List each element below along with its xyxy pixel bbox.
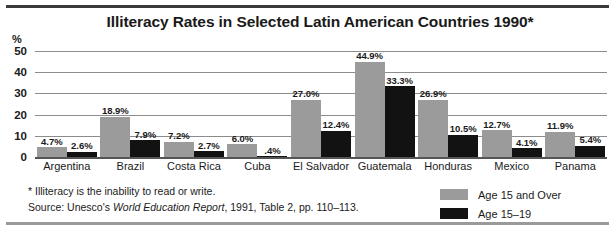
legend-label: Age 15–19 <box>478 208 531 220</box>
bar: 11.9% <box>545 132 575 157</box>
y-axis-tick-label: 40 <box>0 66 27 78</box>
x-axis-label: El Salvador <box>289 160 353 174</box>
bar-value-label: 5.4% <box>579 135 601 145</box>
axis-baseline <box>35 157 607 159</box>
plot-area: 50403020100 4.7%2.6%18.9%7.9%7.2%2.7%6.0… <box>35 51 607 157</box>
bar: 18.9% <box>100 117 130 157</box>
x-axis-labels: ArgentinaBrazilCosta RicaCubaEl Salvador… <box>35 160 607 174</box>
bar-group: 12.7%4.1% <box>480 51 544 157</box>
y-axis-tick-label: 50 <box>0 45 27 57</box>
bar-group: 44.9%33.3% <box>353 51 417 157</box>
bar-value-label: 4.1% <box>516 138 538 148</box>
bar: 2.7% <box>194 151 224 157</box>
bar-pair: 44.9%33.3% <box>353 51 417 157</box>
black-swatch <box>440 208 468 219</box>
x-axis-label: Guatemala <box>353 160 417 174</box>
x-axis-label: Cuba <box>226 160 290 174</box>
top-rule <box>6 5 609 8</box>
bottom-rule <box>6 222 609 225</box>
bar-pair: 11.9%5.4% <box>544 51 608 157</box>
bar-group: 7.2%2.7% <box>162 51 226 157</box>
x-axis-label: Panama <box>544 160 608 174</box>
bar-group: 18.9%7.9% <box>99 51 163 157</box>
bar-value-label: 10.5% <box>450 124 477 134</box>
bar-value-label: 2.6% <box>71 141 93 151</box>
bar: 4.1% <box>512 148 542 157</box>
bar-group: 26.9%10.5% <box>416 51 480 157</box>
bar-value-label: 2.7% <box>198 141 220 151</box>
bar-group: 6.0%.4% <box>226 51 290 157</box>
source-prefix: Source: Unesco's <box>28 201 113 213</box>
y-axis-tick-label: 10 <box>0 130 27 142</box>
bar-value-label: 33.3% <box>386 76 413 86</box>
chart-title: Illiteracy Rates in Selected Latin Ameri… <box>40 13 600 31</box>
bar-value-label: 4.7% <box>41 137 63 147</box>
bar-pair: 18.9%7.9% <box>99 51 163 157</box>
chart-figure: % Illiteracy Rates in Selected Latin Ame… <box>0 0 615 229</box>
bar-value-label: 44.9% <box>356 51 383 61</box>
bar-value-label: 11.9% <box>547 121 573 131</box>
bar-pair: 6.0%.4% <box>226 51 290 157</box>
bar: 6.0% <box>227 144 257 157</box>
gray-swatch <box>440 189 468 200</box>
x-axis-label: Costa Rica <box>162 160 226 174</box>
bar: 5.4% <box>575 146 605 157</box>
bar-group: 4.7%2.6% <box>35 51 99 157</box>
bar-value-label: 12.4% <box>323 120 350 130</box>
bar: 10.5% <box>448 135 478 157</box>
chart-legend: Age 15 and OverAge 15–19 <box>440 186 561 224</box>
footnote-asterisk: * Illiteracy is the inability to read or… <box>28 185 215 197</box>
bar-pair: 12.7%4.1% <box>480 51 544 157</box>
bar: 12.7% <box>482 130 512 157</box>
y-axis-tick-label: 0 <box>0 151 27 163</box>
source-note: Source: Unesco's World Education Report,… <box>28 201 359 213</box>
bar-value-label: 18.9% <box>102 106 129 116</box>
source-publication-title: World Education Report <box>113 201 224 213</box>
x-axis-label: Mexico <box>480 160 544 174</box>
bar-group: 11.9%5.4% <box>544 51 608 157</box>
bar-pair: 27.0%12.4% <box>289 51 353 157</box>
source-suffix: , 1991, Table 2, pp. 110–113. <box>224 201 358 213</box>
bar-pair: 7.2%2.7% <box>162 51 226 157</box>
bar-group: 27.0%12.4% <box>289 51 353 157</box>
bar-value-label: 7.9% <box>135 130 157 140</box>
bar-groups: 4.7%2.6%18.9%7.9%7.2%2.7%6.0%.4%27.0%12.… <box>35 51 607 157</box>
bar-pair: 26.9%10.5% <box>416 51 480 157</box>
bar-value-label: 26.9% <box>420 89 447 99</box>
x-axis-label: Honduras <box>416 160 480 174</box>
bar: 44.9% <box>355 62 385 157</box>
bar-value-label: 6.0% <box>232 134 254 144</box>
bar-value-label: 12.7% <box>483 120 510 130</box>
y-axis-tick-label: 20 <box>0 109 27 121</box>
bar: 7.2% <box>164 142 194 157</box>
bar: 27.0% <box>291 100 321 157</box>
bar: 4.7% <box>37 147 67 157</box>
y-axis-unit-label: % <box>12 33 22 45</box>
legend-item: Age 15–19 <box>440 205 561 222</box>
x-axis-label: Argentina <box>35 160 99 174</box>
y-axis-tick-label: 30 <box>0 87 27 99</box>
bar: 2.6% <box>67 152 97 158</box>
bar-pair: 4.7%2.6% <box>35 51 99 157</box>
bar: .4% <box>257 156 287 157</box>
legend-label: Age 15 and Over <box>478 189 561 201</box>
bar-value-label: 7.2% <box>168 131 190 141</box>
bar-value-label: .4% <box>264 146 280 156</box>
bar: 26.9% <box>418 100 448 157</box>
bar-value-label: 27.0% <box>293 89 320 99</box>
bar: 12.4% <box>321 131 351 157</box>
bar: 33.3% <box>385 86 415 157</box>
legend-item: Age 15 and Over <box>440 186 561 203</box>
bar: 7.9% <box>130 140 160 157</box>
x-axis-label: Brazil <box>99 160 163 174</box>
